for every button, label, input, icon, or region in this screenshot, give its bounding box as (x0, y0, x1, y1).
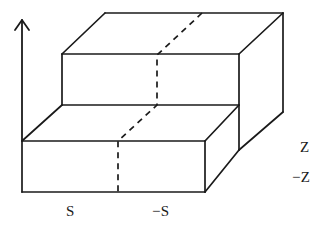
label-s: S (66, 204, 75, 219)
vertical-axis-arrow (15, 20, 29, 141)
label-negative-s: −S (152, 204, 170, 219)
step-top-face-fill (22, 105, 239, 141)
label-z: Z (300, 140, 310, 155)
upper-front-face-fill (62, 54, 239, 105)
figure-container: S −S Z −Z (0, 0, 336, 229)
lower-front-face-fill (22, 141, 205, 192)
block-diagram-svg (0, 0, 336, 229)
label-negative-z: −Z (292, 170, 310, 185)
